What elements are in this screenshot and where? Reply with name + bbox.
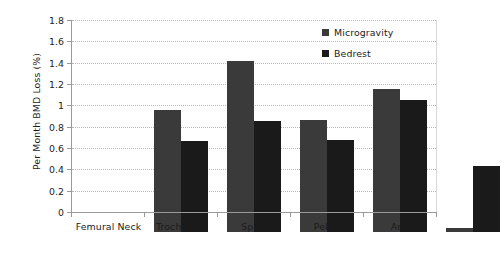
y-axis-tick-label: 0.4 xyxy=(4,164,64,175)
x-axis-tick-mark xyxy=(144,212,145,217)
x-axis-label-pelvis: Pelvis xyxy=(314,221,341,232)
y-axis-tick-label: 1.4 xyxy=(4,57,64,68)
y-axis-tick-label: 1 xyxy=(4,100,64,111)
legend-item-microgravity: Microgravity xyxy=(322,24,434,40)
y-axis-tick-label: 1.6 xyxy=(4,36,64,47)
y-axis-line xyxy=(71,20,72,212)
bar xyxy=(227,61,254,232)
bar xyxy=(154,110,181,232)
x-axis-tick-mark xyxy=(71,212,72,217)
y-axis-tick-mark xyxy=(67,169,72,170)
x-axis-label-spine: Spine xyxy=(241,221,268,232)
x-axis-category-labels: Femural NeckTrochanterSpinePelvisArm xyxy=(72,221,437,241)
legend-label: Microgravity xyxy=(334,27,393,38)
x-axis-tick-mark xyxy=(436,212,437,217)
bar xyxy=(373,89,400,232)
y-axis-tick-label: 0.2 xyxy=(4,185,64,196)
y-axis-tick-mark xyxy=(67,20,72,21)
bar xyxy=(327,140,354,232)
y-axis-tick-label: 0.6 xyxy=(4,143,64,154)
bar xyxy=(300,120,327,232)
y-axis-tick-mark xyxy=(67,105,72,106)
y-axis-tick-mark xyxy=(67,84,72,85)
chart-legend: MicrogravityBedrest xyxy=(322,24,434,66)
y-axis-tick-mark xyxy=(67,127,72,128)
bar xyxy=(473,166,500,232)
x-axis-tick-mark xyxy=(290,212,291,217)
y-axis-tick-labels: 00.20.40.60.811.21.41.61.8 xyxy=(0,0,64,256)
x-axis-label-trochanter: Trochanter xyxy=(156,221,207,232)
y-axis-tick-mark xyxy=(67,63,72,64)
x-axis-label-arm: Arm xyxy=(391,221,411,232)
bar xyxy=(181,141,208,232)
y-axis-tick-label: 1.2 xyxy=(4,79,64,90)
y-axis-tick-mark xyxy=(67,41,72,42)
bar xyxy=(446,228,473,232)
y-axis-tick-label: 1.8 xyxy=(4,15,64,26)
legend-label: Bedrest xyxy=(334,48,371,59)
y-axis-tick-mark xyxy=(67,191,72,192)
legend-item-bedrest: Bedrest xyxy=(322,45,434,61)
gridline xyxy=(72,20,436,21)
bars-layer xyxy=(144,40,504,232)
legend-swatch-icon xyxy=(322,50,329,57)
y-axis-tick-mark xyxy=(67,148,72,149)
y-axis-tick-label: 0 xyxy=(4,207,64,218)
x-axis-tick-mark xyxy=(363,212,364,217)
legend-swatch-icon xyxy=(322,29,329,36)
y-axis-tick-label: 0.8 xyxy=(4,121,64,132)
x-axis-tick-mark xyxy=(217,212,218,217)
x-axis-label-femural-neck: Femural Neck xyxy=(76,221,141,232)
bar xyxy=(254,121,281,232)
x-axis-line xyxy=(71,212,437,213)
